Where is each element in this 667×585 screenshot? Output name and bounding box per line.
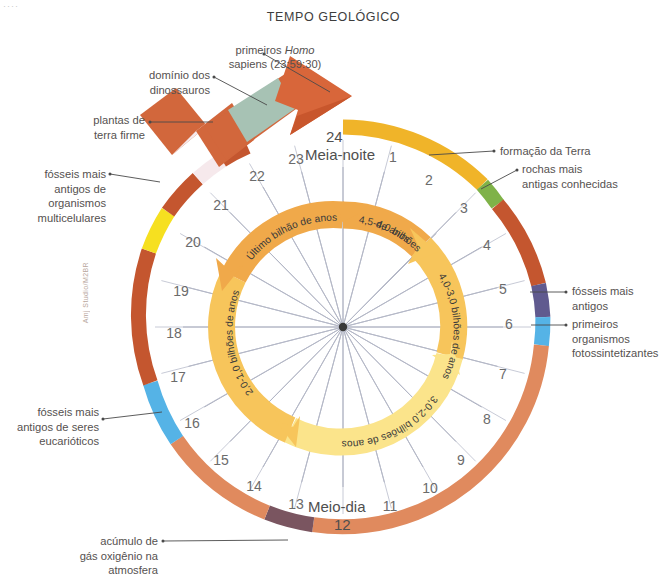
inner-seg-3_0-2_0 bbox=[290, 356, 450, 442]
outer-band-eucarioticos bbox=[150, 383, 176, 440]
clock-hour-10: 10 bbox=[417, 480, 443, 496]
clock-hour-20: 20 bbox=[180, 234, 206, 250]
clock-hour-1: 1 bbox=[380, 149, 406, 165]
clock-hour-15: 15 bbox=[208, 452, 234, 468]
clock-hour-11: 11 bbox=[377, 498, 403, 514]
outer-band-salmon-2 bbox=[177, 440, 267, 512]
clock-hour-13: 13 bbox=[283, 496, 309, 512]
callout-homo-sapiens: primeiros Homo sapiens (23:59:30) bbox=[205, 28, 345, 72]
callout-fotossintetizantes: primeiros organismos fotossintetizantes bbox=[572, 317, 667, 361]
callout-eucarioticos: fósseis mais antigos de seres eucariótic… bbox=[6, 405, 99, 449]
clock-hour-19: 19 bbox=[168, 283, 194, 299]
clock-hour-16: 16 bbox=[179, 415, 205, 431]
outer-band-rochas-antigas bbox=[482, 185, 497, 205]
clock-midnight-number: 24 bbox=[326, 128, 343, 145]
clock-hour-14: 14 bbox=[241, 478, 267, 494]
clock-midnight-label: Meia-noite bbox=[305, 146, 375, 163]
clock-center-hub bbox=[339, 323, 347, 331]
clock-hour-21: 21 bbox=[208, 197, 234, 213]
clock-hour-18: 18 bbox=[161, 325, 187, 341]
outer-band-terracotta-2 bbox=[138, 251, 150, 383]
callout-dinossauros: domínio dos dinossauros bbox=[85, 68, 210, 97]
clock-hour-17: 17 bbox=[165, 369, 191, 385]
callout-formacao-terra: formação da Terra bbox=[500, 144, 660, 159]
outer-band-fotossintetizantes bbox=[541, 317, 543, 345]
clock-hour-22: 22 bbox=[244, 168, 270, 184]
outer-band-fosseis-antigos bbox=[539, 285, 543, 318]
clock-noon-number: 12 bbox=[334, 516, 351, 533]
callout-plantas-terra-firme: plantas de terra firme bbox=[30, 113, 145, 142]
clock-hour-9: 9 bbox=[448, 452, 474, 468]
clock-hour-23: 23 bbox=[283, 151, 309, 167]
outer-band-terracotta-3 bbox=[168, 179, 198, 212]
clock-hour-4: 4 bbox=[474, 237, 500, 253]
clock-hour-8: 8 bbox=[474, 411, 500, 427]
clock-hour-2: 2 bbox=[416, 172, 442, 188]
taxon-name: Homo bbox=[285, 44, 315, 56]
callout-fosseis-antigos: fósseis mais antigos bbox=[572, 284, 667, 313]
clock-hour-3: 3 bbox=[451, 200, 477, 216]
arrow-shaft-terracotta bbox=[140, 88, 207, 155]
clock-hour-5: 5 bbox=[490, 281, 516, 297]
leader-oxigenio bbox=[163, 540, 288, 541]
geological-time-clock-figure: ···· TEMPO GEOLÓGICO Amj Studio/M2BR bbox=[0, 0, 667, 585]
leader-multicelulares bbox=[110, 174, 160, 182]
callout-multicelulares: fósseis mais antigos de organismos multi… bbox=[8, 167, 106, 225]
leader-eucarioticos bbox=[103, 412, 162, 419]
outer-band-oxigenio bbox=[267, 513, 313, 525]
outer-band-multicelulares bbox=[149, 212, 168, 251]
outer-band-terracotta-1 bbox=[498, 204, 539, 284]
clock-noon-label: Meio-dia bbox=[308, 498, 366, 515]
clock-hour-6: 6 bbox=[496, 316, 522, 332]
callout-oxigenio: acúmulo de gás oxigênio na atmosfera bbox=[50, 534, 158, 578]
callout-rochas-antigas: rochas mais antigas conhecidas bbox=[522, 162, 667, 191]
clock-hour-7: 7 bbox=[490, 366, 516, 382]
